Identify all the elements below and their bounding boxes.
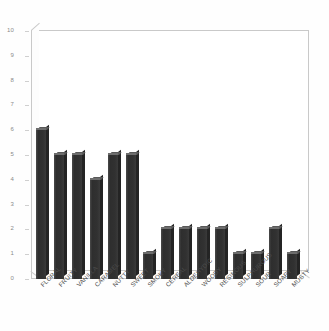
x-axis-category-label: SWEET [129,267,150,288]
x-axis-labels: FLORALFRUITYVANILLACARAMELNUTTYSWEETSMOK… [0,0,329,331]
bar-chart-figure: 109876543210 FLORALFRUITYVANILLACARAMELN… [0,0,329,331]
x-axis-category-label: SOUR [254,270,272,288]
x-axis-category-label: MUSTY [290,267,311,288]
x-axis-category-label: SOAPY [272,267,293,288]
